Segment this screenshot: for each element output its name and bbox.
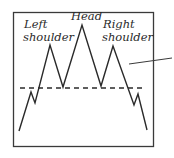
left-shoulder-label-line1: Left (23, 17, 48, 31)
pointer-line (129, 58, 172, 64)
right-shoulder-label-line1: Right (102, 17, 135, 31)
head-label: Head (70, 9, 102, 23)
right-shoulder-label-line2: shoulder (102, 30, 154, 44)
head-and-shoulders-diagram: Left shoulder Head Right shoulder (0, 0, 174, 158)
left-shoulder-label-line2: shoulder (23, 30, 75, 44)
